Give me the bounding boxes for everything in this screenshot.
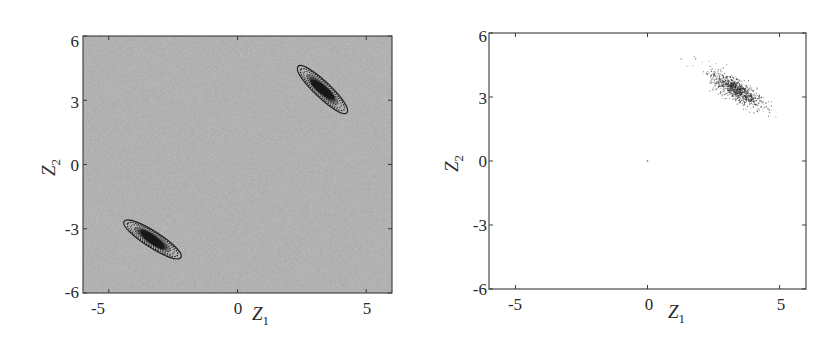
left-ytick-label: 6 (71, 32, 80, 51)
right-scatter-panel: -5 0 5 6 3 0 -3 -6 Z1 Z2 (420, 0, 833, 344)
left-xtick-label: 5 (363, 299, 372, 318)
left-yaxis-label: Z2 (38, 159, 63, 176)
right-ytick-label: 0 (479, 152, 488, 171)
right-ytick-label: -6 (473, 280, 487, 299)
right-xtick-label: 0 (645, 295, 654, 314)
left-contour-panel: -5 0 5 6 3 0 -3 -6 Z1 Z2 (0, 0, 420, 344)
left-xaxis-label: Z1 (252, 303, 269, 328)
right-ytick-label: 3 (479, 89, 488, 108)
right-xaxis-label: Z1 (668, 301, 685, 326)
right-yaxis-label: Z2 (441, 155, 466, 172)
left-xtick-label: 0 (234, 299, 243, 318)
left-xtick-label: -5 (91, 299, 105, 318)
right-xtick-label: -5 (508, 295, 522, 314)
right-ytick-label: -3 (473, 216, 487, 235)
left-ytick-label: -3 (65, 220, 79, 239)
right-ytick-label: 6 (479, 27, 488, 46)
left-contour-chart: -5 0 5 6 3 0 -3 -6 Z1 Z2 (0, 0, 420, 344)
left-ytick-label: 0 (71, 156, 80, 175)
left-ytick-label: -6 (65, 283, 79, 302)
right-xtick-label: 5 (777, 295, 786, 314)
scatter-point (647, 160, 649, 162)
right-scatter-chart: -5 0 5 6 3 0 -3 -6 Z1 Z2 (420, 0, 833, 344)
left-ytick-label: 3 (71, 93, 80, 112)
